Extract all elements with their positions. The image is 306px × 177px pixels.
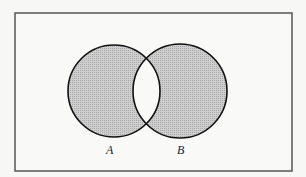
set-a-label: A [105, 143, 114, 157]
venn-diagram: A B [0, 0, 306, 177]
set-b-label: B [177, 143, 185, 157]
